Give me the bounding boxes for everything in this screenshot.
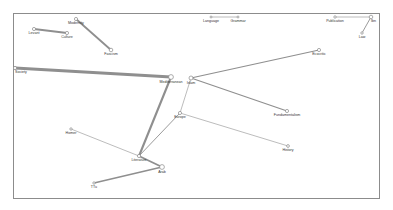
edge-europe-literature xyxy=(139,113,180,156)
node-label: TTu xyxy=(91,185,97,189)
node-label: Culture xyxy=(61,35,73,39)
node-history[interactable]: History xyxy=(282,145,293,152)
node-label: Literature xyxy=(131,158,146,162)
node-circle[interactable] xyxy=(237,16,239,18)
node-homer[interactable]: Homer xyxy=(66,128,78,135)
node-fundamentalism[interactable]: Fundamentalism xyxy=(274,109,301,117)
node-label: Publication xyxy=(326,19,344,23)
node-literature[interactable]: Literature xyxy=(131,154,146,162)
node-europe[interactable]: Europe xyxy=(174,111,186,119)
node-label: Europe xyxy=(174,115,186,119)
node-circle[interactable] xyxy=(361,32,363,34)
node-label: Mediterranean xyxy=(159,80,182,84)
edge-arab-ttu xyxy=(94,167,162,183)
edge-homer-literature xyxy=(71,129,139,156)
edge-islam-fundamentalism xyxy=(191,78,287,111)
node-label: Ibn xyxy=(371,19,376,23)
node-label: Homer xyxy=(66,131,78,135)
node-label: Language xyxy=(203,19,219,23)
node-circle[interactable] xyxy=(93,182,95,184)
node-label: Levant xyxy=(29,31,40,35)
node-circle[interactable] xyxy=(70,128,72,130)
node-fascism[interactable]: Fascism xyxy=(104,48,117,56)
node-label: Fundamentalism xyxy=(274,113,301,117)
node-label: Modernity xyxy=(68,21,84,25)
node-circle[interactable] xyxy=(210,16,212,18)
node-levant[interactable]: Levant xyxy=(29,27,40,35)
network-graph: LevantCultureModernityFascismLanguageGra… xyxy=(0,0,393,210)
node-label: History xyxy=(282,148,293,152)
edge-mediterranean-literature xyxy=(139,77,171,156)
node-label: Law xyxy=(359,35,366,39)
node-label: Grammar xyxy=(230,19,246,23)
edge-islam-ecocritic xyxy=(191,50,319,78)
node-ecocritic[interactable]: Ecocritic xyxy=(312,48,326,56)
node-circle[interactable] xyxy=(160,165,165,170)
node-circle[interactable] xyxy=(334,16,336,18)
node-law[interactable]: Law xyxy=(359,32,366,39)
node-label: Arab xyxy=(158,170,166,174)
node-label: Society xyxy=(15,70,27,74)
node-label: Ecocritic xyxy=(312,52,326,56)
node-label: Fascism xyxy=(104,52,117,56)
node-ibn[interactable]: Ibn xyxy=(369,15,376,23)
edge-society-mediterranean xyxy=(15,68,171,77)
nodes-layer: LevantCultureModernityFascismLanguageGra… xyxy=(13,15,376,189)
edge-ibn-law xyxy=(362,17,371,33)
node-circle[interactable] xyxy=(169,75,174,80)
node-modernity[interactable]: Modernity xyxy=(68,17,84,25)
node-circle[interactable] xyxy=(287,145,290,148)
node-circle[interactable] xyxy=(189,76,193,80)
edge-europe-history xyxy=(180,113,288,146)
edges-layer xyxy=(15,17,371,183)
node-label: Islam xyxy=(187,81,196,85)
